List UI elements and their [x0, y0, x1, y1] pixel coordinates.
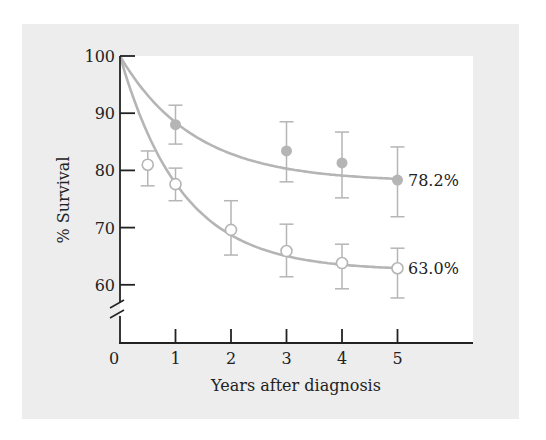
x-tick-label: 4: [337, 349, 347, 368]
open-circle-marker: [337, 258, 348, 269]
x-axis-title: Years after diagnosis: [210, 376, 381, 395]
y-tick-label: 70: [95, 219, 115, 238]
y-tick-label: 90: [95, 104, 115, 123]
x-tick-label: 1: [170, 349, 180, 368]
x-tick-label: 2: [226, 349, 236, 368]
filled-circle-marker: [281, 145, 292, 156]
x-tick-label: 5: [392, 349, 402, 368]
open-circle-marker: [392, 263, 403, 274]
x-tick-label: 0: [109, 349, 119, 368]
filled-circle-marker: [337, 157, 348, 168]
upper-end-label: 78.2%: [408, 171, 459, 190]
survival-chart: 60708090100012345 78.2% 63.0% Years afte…: [0, 0, 546, 440]
x-tick-label: 3: [281, 349, 291, 368]
plot-area: [120, 56, 473, 343]
open-circle-marker: [226, 224, 237, 235]
y-tick-label: 60: [95, 276, 115, 295]
lower-end-label: 63.0%: [408, 259, 459, 278]
open-circle-marker: [170, 179, 181, 190]
filled-circle-marker: [392, 175, 403, 186]
open-circle-marker: [142, 159, 153, 170]
y-axis-title: % Survival: [54, 156, 73, 243]
y-tick-label: 100: [84, 47, 115, 66]
open-circle-marker: [281, 246, 292, 257]
y-tick-label: 80: [95, 161, 115, 180]
filled-circle-marker: [170, 119, 181, 130]
